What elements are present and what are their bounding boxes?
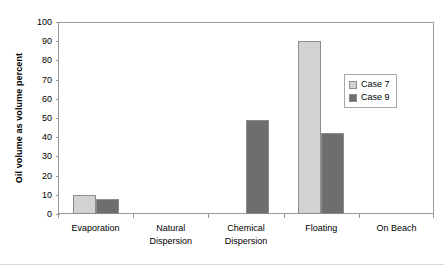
x-axis-category-label-line: Natural [133,222,208,235]
bar-case-9-floating [321,133,344,214]
x-axis-tick-mark [433,214,434,218]
x-axis-category-label-line: Evaporation [58,222,133,235]
legend: Case 7Case 9 [344,74,397,108]
bottom-divider [0,264,444,265]
x-axis-category-label: Evaporation [58,222,133,235]
bar-chart: Oil volume as volume percent 10090807060… [0,0,444,267]
legend-item: Case 7 [349,78,390,91]
x-axis-category-label: Floating [284,222,359,235]
x-axis-category-label: NaturalDispersion [133,222,208,248]
bar-case-7-floating [298,41,321,214]
x-axis-category-label-line: On Beach [359,222,434,235]
x-axis-category-label: On Beach [359,222,434,235]
legend-label: Case 9 [361,93,390,102]
x-axis-category-label-line: Dispersion [208,235,283,248]
x-axis-tick-marks [58,214,434,220]
legend-swatch-icon [349,81,357,89]
legend-label: Case 7 [361,80,390,89]
x-axis-category-label-line: Dispersion [133,235,208,248]
x-axis-tick-mark [58,214,59,218]
x-axis-tick-mark [359,214,360,218]
x-axis-tick-mark [284,214,285,218]
bars-layer [58,22,434,214]
bar-case-9-evaporation [96,199,119,214]
x-axis-category-labels: EvaporationNaturalDispersionChemicalDisp… [58,222,434,262]
y-axis-tick-marks [0,22,64,214]
x-axis-tick-mark [133,214,134,218]
bar-case-7-evaporation [73,195,96,214]
legend-item: Case 9 [349,91,390,104]
bar-case-9-chemical-dispersion [246,120,269,214]
x-axis-category-label-line: Chemical [208,222,283,235]
x-axis-tick-mark [208,214,209,218]
x-axis-category-label-line: Floating [284,222,359,235]
x-axis-category-label: ChemicalDispersion [208,222,283,248]
legend-swatch-icon [349,94,357,102]
